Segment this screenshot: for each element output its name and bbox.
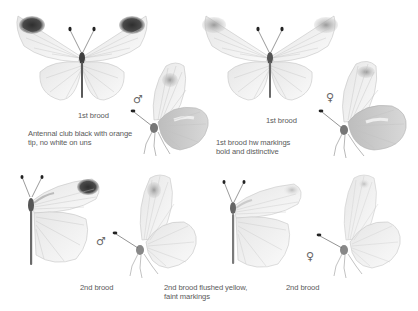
butterfly-male-2nd-brood-underside — [104, 170, 200, 280]
female-symbol: ♀ — [326, 92, 334, 103]
butterfly-male-2nd-brood-upperside — [14, 175, 104, 275]
female-symbol-2nd: ♀ — [306, 251, 314, 262]
male-symbol-2nd: ♂ — [96, 236, 106, 247]
note-hw-markings-line2: bold and distinctive — [216, 147, 279, 157]
butterfly-female-1st-brood-underside — [314, 58, 414, 160]
butterfly-female-2nd-brood-underside — [308, 170, 404, 280]
note-antennal-club-line2: tip, no white on uns — [28, 138, 91, 148]
label-2nd-brood-male: 2nd brood — [80, 283, 113, 293]
note-flushed-yellow-line2: faint markings — [164, 292, 210, 302]
label-1st-brood-male: 1st brood — [78, 111, 109, 121]
butterfly-female-2nd-brood-upperside — [216, 180, 306, 280]
male-symbol: ♂ — [133, 94, 143, 105]
label-1st-brood-female: 1st brood — [266, 116, 297, 126]
label-2nd-brood-female: 2nd brood — [286, 283, 319, 293]
